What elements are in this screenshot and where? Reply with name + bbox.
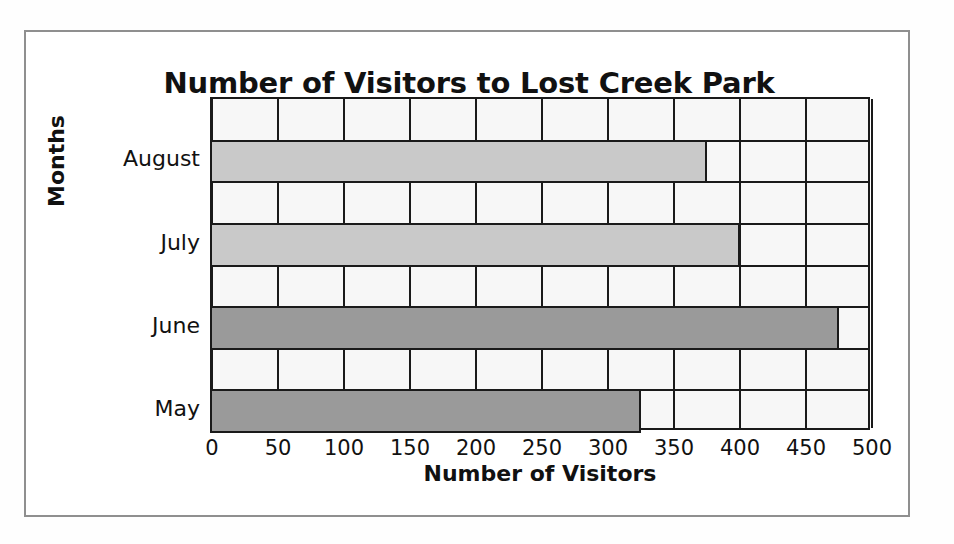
plot-area: MayJuneJulyAugust 0501001502002503003504… [210, 97, 870, 430]
y-tick-label-june: June [20, 313, 200, 338]
bar-august [210, 140, 707, 184]
bar-june [210, 306, 839, 350]
bar-july [210, 223, 740, 267]
x-axis-label: Number of Visitors [210, 461, 870, 486]
y-tick-label-may: May [20, 396, 200, 421]
chart-title: Number of Visitors to Lost Creek Park [26, 66, 912, 100]
y-tick-label-august: August [20, 146, 200, 171]
x-tick-label-0: 0 [205, 436, 218, 460]
chart-panel: Number of Visitors to Lost Creek Park Mo… [24, 30, 910, 517]
x-tick-label-200: 200 [456, 436, 496, 460]
x-tick-label-250: 250 [522, 436, 562, 460]
y-tick-label-july: July [20, 230, 200, 255]
x-tick-label-350: 350 [654, 436, 694, 460]
x-tick-label-50: 50 [265, 436, 292, 460]
gridline-x-500 [871, 99, 873, 428]
bar-may [210, 389, 641, 433]
screenshot-root: Number of Visitors to Lost Creek Park Mo… [0, 0, 954, 544]
x-tick-label-300: 300 [588, 436, 628, 460]
x-tick-label-400: 400 [720, 436, 760, 460]
x-tick-label-500: 500 [852, 436, 892, 460]
bar-series: MayJuneJulyAugust [212, 99, 868, 428]
x-tick-label-450: 450 [786, 436, 826, 460]
x-tick-label-150: 150 [390, 436, 430, 460]
x-tick-label-100: 100 [324, 436, 364, 460]
